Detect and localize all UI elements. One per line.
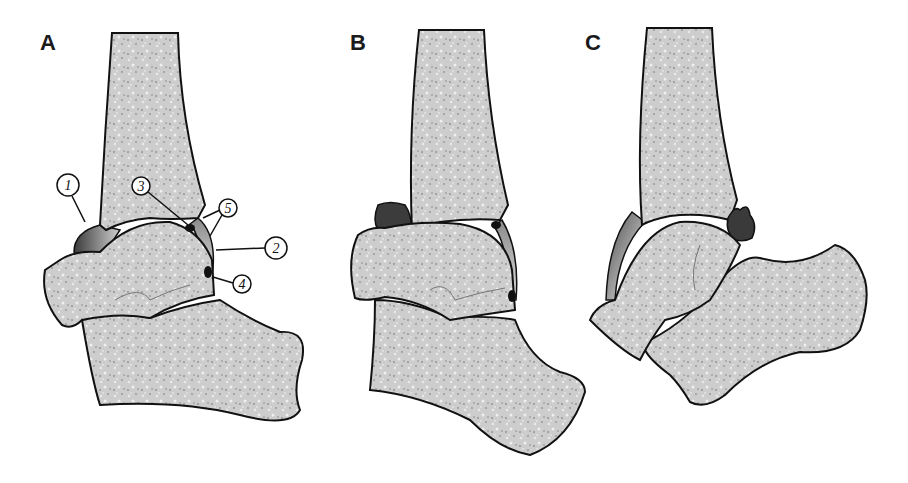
callout-1: 1 <box>57 174 85 222</box>
ankle-diagram: 1 3 5 2 4 <box>0 0 908 483</box>
svg-text:4: 4 <box>239 277 246 292</box>
svg-text:5: 5 <box>225 201 232 216</box>
tibia-c <box>640 28 737 225</box>
svg-text:2: 2 <box>273 241 280 256</box>
nodule-3 <box>185 224 195 232</box>
panel-a: 1 3 5 2 4 <box>44 33 303 420</box>
panel-b <box>351 30 585 455</box>
panel-c <box>590 28 867 405</box>
tibia-b <box>411 30 508 232</box>
svg-text:1: 1 <box>65 178 72 193</box>
callout-4: 4 <box>213 275 251 293</box>
tibia-a <box>100 33 205 230</box>
calcaneus-a <box>82 300 303 420</box>
calcaneus-b <box>370 300 585 455</box>
svg-text:3: 3 <box>137 179 145 194</box>
nodule-4 <box>204 266 212 278</box>
callout-2: 2 <box>216 237 287 259</box>
